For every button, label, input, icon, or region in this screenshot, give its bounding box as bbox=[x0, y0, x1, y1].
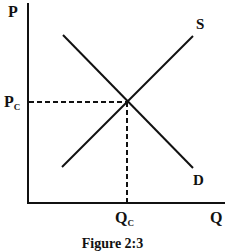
equilibrium-price-label: PC bbox=[4, 94, 20, 112]
quantity-label-main: Q bbox=[115, 209, 127, 226]
supply-label: S bbox=[196, 17, 204, 32]
price-label-main: P bbox=[4, 93, 14, 110]
figure-caption: Figure 2:3 bbox=[0, 236, 225, 252]
x-axis-label: Q bbox=[210, 210, 222, 226]
y-axis-label: P bbox=[8, 4, 18, 20]
quantity-label-sub: C bbox=[127, 218, 134, 228]
price-label-sub: C bbox=[14, 102, 21, 112]
demand-label: D bbox=[193, 173, 204, 188]
equilibrium-quantity-label: QC bbox=[115, 210, 134, 228]
